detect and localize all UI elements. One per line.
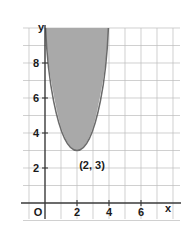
graph-figure: y x O 2 4 6 2 4 6 8 (2, 3) <box>0 0 184 244</box>
y-tick-label-4: 4 <box>33 127 40 139</box>
origin-label: O <box>34 206 43 218</box>
x-tick-label-6: 6 <box>138 206 144 218</box>
y-axis-label: y <box>38 21 45 33</box>
vertex-annotation: (2, 3) <box>79 159 105 171</box>
y-tick-label-8: 8 <box>33 57 39 69</box>
parabola-coordinate-graph: y x O 2 4 6 2 4 6 8 (2, 3) <box>0 0 184 244</box>
y-tick-label-2: 2 <box>33 162 39 174</box>
y-tick-label-6: 6 <box>33 92 39 104</box>
x-axis-label: x <box>165 202 172 214</box>
x-tick-label-4: 4 <box>106 206 113 218</box>
x-tick-label-2: 2 <box>74 206 80 218</box>
